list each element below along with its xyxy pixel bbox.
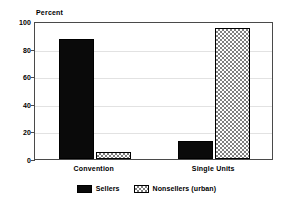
y-axis-tick-label: 20 <box>0 129 31 136</box>
bar-sellers-convention <box>59 39 94 159</box>
legend-item-nonsellers: Nonsellers (urban) <box>134 185 217 193</box>
y-axis-tick-mark <box>31 132 35 133</box>
plot-area <box>34 22 273 160</box>
y-axis-tick-label: 80 <box>0 47 31 54</box>
y-axis-tick-mark <box>31 77 35 78</box>
y-axis-tick-label: 100 <box>0 19 31 26</box>
legend-label-nonsellers: Nonsellers (urban) <box>153 185 217 193</box>
y-axis-tick-mark <box>31 50 35 51</box>
y-axis-tick-mark <box>31 160 35 161</box>
bar-chart: Percent 020406080100 ConventionSingle Un… <box>0 0 293 207</box>
bar-sellers-single-units <box>178 141 213 159</box>
legend-swatch-sellers-icon <box>77 185 92 193</box>
bar-nonsellers-urban-single-units <box>215 28 250 159</box>
legend-item-sellers: Sellers <box>77 185 120 193</box>
y-axis-tick-label: 0 <box>0 157 31 164</box>
x-axis-label-single-units: Single Units <box>192 165 235 173</box>
y-axis-tick-label: 40 <box>0 102 31 109</box>
y-axis-tick-mark <box>31 105 35 106</box>
legend-swatch-nonsellers-icon <box>134 185 149 193</box>
legend-label-sellers: Sellers <box>96 185 120 193</box>
y-axis-title: Percent <box>36 8 63 17</box>
x-axis-label-convention: Convention <box>74 165 115 173</box>
bar-nonsellers-urban-convention <box>96 152 131 159</box>
chart-legend: Sellers Nonsellers (urban) <box>0 185 293 193</box>
y-axis-tick-label: 60 <box>0 74 31 81</box>
